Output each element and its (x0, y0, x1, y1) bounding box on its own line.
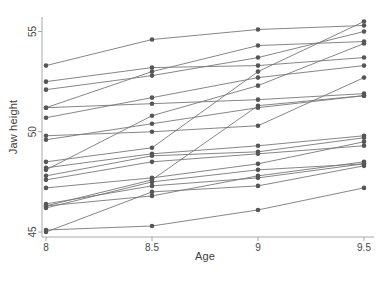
data-point (256, 123, 261, 128)
data-point (256, 83, 261, 88)
data-point (362, 139, 367, 144)
growth-line-subject-8 (46, 78, 364, 136)
y-tick-label: 55 (27, 26, 38, 38)
data-point (256, 27, 261, 32)
data-point (256, 75, 261, 80)
data-point (150, 145, 155, 150)
data-point (150, 37, 155, 42)
data-point (256, 184, 261, 189)
data-point (256, 174, 261, 179)
data-point (256, 69, 261, 74)
data-point (44, 174, 49, 179)
data-point (44, 160, 49, 165)
series-lines (44, 19, 367, 234)
data-point (256, 208, 261, 213)
data-point (150, 224, 155, 229)
data-point (150, 69, 155, 74)
growth-line-subject-17 (46, 142, 364, 188)
data-point (256, 143, 261, 148)
data-point (44, 105, 49, 110)
data-point (256, 152, 261, 157)
y-tick-label: 50 (27, 126, 38, 138)
growth-line-subject-6 (46, 58, 364, 82)
data-point (362, 23, 367, 28)
data-point (362, 29, 367, 34)
data-point (44, 137, 49, 142)
data-point (362, 63, 367, 68)
data-point (44, 133, 49, 138)
data-point (150, 129, 155, 134)
data-point (150, 113, 155, 118)
data-point (362, 162, 367, 167)
x-tick-label: 9.5 (357, 242, 371, 253)
plot-canvas: 88.599.5455055 (0, 0, 378, 284)
data-point (362, 93, 367, 98)
y-axis-title: Jaw height (7, 100, 19, 155)
data-point (362, 19, 367, 24)
growth-line-subject-20 (46, 96, 364, 206)
data-point (150, 121, 155, 126)
data-point (44, 87, 49, 92)
growth-line-subject-15 (46, 96, 364, 140)
data-point (44, 204, 49, 209)
data-point (150, 95, 155, 100)
data-point (44, 115, 49, 120)
growth-line-subject-9 (46, 44, 364, 170)
data-point (256, 63, 261, 68)
data-point (256, 168, 261, 173)
data-point (362, 133, 367, 138)
data-point (150, 178, 155, 183)
data-point (150, 160, 155, 165)
data-point (44, 79, 49, 84)
data-point (44, 63, 49, 68)
data-point (150, 65, 155, 70)
data-point (44, 230, 49, 235)
data-point (362, 186, 367, 191)
y-tick-label: 45 (27, 226, 38, 238)
data-point (44, 186, 49, 191)
x-axis-title: Age (105, 250, 305, 262)
data-point (256, 55, 261, 60)
data-point (256, 43, 261, 48)
x-tick-label: 8 (43, 242, 49, 253)
jaw-height-growth-chart: 88.599.5455055 Age Jaw height (0, 0, 378, 284)
data-point (44, 178, 49, 183)
growth-line-subject-13 (46, 32, 364, 90)
growth-line-subject-18 (46, 25, 364, 65)
data-point (150, 190, 155, 195)
data-point (150, 101, 155, 106)
data-point (256, 162, 261, 167)
data-point (256, 103, 261, 108)
data-point (362, 75, 367, 80)
data-point (44, 166, 49, 171)
data-point (362, 143, 367, 148)
data-point (150, 184, 155, 189)
data-point (362, 55, 367, 60)
data-point (150, 152, 155, 157)
growth-line-subject-3 (46, 162, 364, 206)
growth-line-subject-7 (46, 42, 364, 108)
data-point (150, 194, 155, 199)
data-point (256, 97, 261, 102)
data-point (362, 41, 367, 46)
data-point (150, 73, 155, 78)
